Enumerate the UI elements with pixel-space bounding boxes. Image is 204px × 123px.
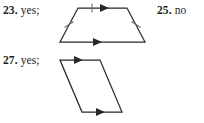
answer-value-27: yes; (21, 54, 40, 66)
arrowhead-top-edge-27 (74, 56, 83, 64)
trapezoid-outline (60, 8, 145, 42)
answer-number-25: 25. (157, 4, 172, 16)
answer-value-25: no (175, 4, 187, 16)
parallelogram-outline (60, 60, 122, 112)
figure-parallelogram-27 (52, 52, 132, 120)
answer-number-23: 23. (3, 4, 18, 16)
answer-item-27: 27. yes; (3, 54, 40, 67)
arrowhead-top-edge (100, 4, 109, 12)
figure-trapezoid-23 (52, 0, 152, 50)
answer-number-27: 27. (3, 54, 18, 66)
answer-item-25: 25. no (157, 4, 186, 17)
arrowhead-bottom-edge-27 (96, 108, 105, 116)
arrowhead-bottom-edge (93, 38, 102, 46)
answer-value-23: yes; (21, 4, 40, 16)
tick-mark-right-leg (132, 22, 141, 28)
worksheet-answer-page: 23. yes; 25. no 27. yes; (0, 0, 204, 123)
answer-item-23: 23. yes; (3, 4, 40, 17)
tick-mark-left-leg (65, 22, 74, 28)
